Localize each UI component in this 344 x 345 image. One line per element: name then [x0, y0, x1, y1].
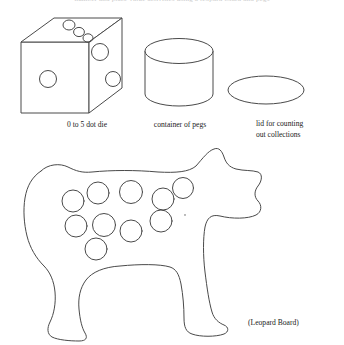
- dot-die-figure: [21, 18, 122, 113]
- caption-leopard-board: (Leopard Board): [248, 318, 340, 329]
- counting-lid-figure: [228, 76, 304, 104]
- lid-ellipse: [228, 76, 304, 104]
- die-front-face: [21, 42, 89, 113]
- caption-lid-line-2: out collections: [256, 130, 342, 141]
- caption-lid-line-1: lid for counting: [256, 119, 342, 130]
- worksheet-page: number and place value activities using …: [0, 0, 344, 345]
- peg-container-figure: [145, 39, 213, 107]
- leopard-board-outline: [24, 148, 261, 341]
- illustration-canvas: [0, 0, 344, 345]
- caption-peg-container: container of pegs: [134, 120, 226, 131]
- caption-dot-die: 0 to 5 dot die: [32, 120, 142, 131]
- cylinder-top-rim: [145, 39, 213, 64]
- leopard-board-figure: [24, 148, 261, 341]
- caption-counting-lid: lid for counting out collections: [256, 119, 342, 140]
